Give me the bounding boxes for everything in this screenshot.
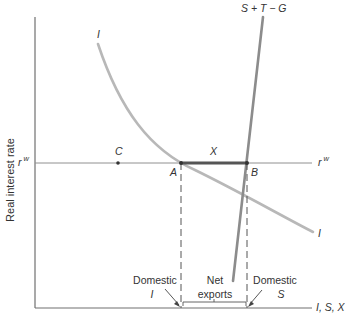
domestic-i-arrowhead	[174, 301, 180, 307]
y-axis-label: Real interest rate	[4, 138, 16, 222]
net-exports-label: Net exports	[192, 275, 238, 299]
net-exports-bracket	[183, 299, 246, 306]
point-c-label: C	[115, 146, 123, 157]
world-rate-label-left: rw	[18, 155, 29, 168]
domestic-investment-label: Domestic I	[131, 275, 179, 299]
segment-x-label: X	[210, 146, 217, 157]
point-a-marker	[179, 161, 183, 165]
world-rate-label-right: rw	[318, 155, 329, 168]
point-b-marker	[245, 161, 249, 165]
point-a-label: A	[170, 167, 177, 178]
point-b-label: B	[251, 167, 258, 178]
investment-curve-label-bottom: I	[318, 228, 321, 239]
domestic-s-arrowhead	[248, 301, 254, 307]
x-axis-label: I, S, X	[316, 302, 345, 313]
investment-curve	[98, 44, 313, 232]
domestic-saving-label: Domestic S	[251, 275, 299, 299]
point-c-marker	[116, 161, 120, 165]
diagram-canvas	[0, 0, 345, 318]
national-saving-label: S + T − G	[241, 3, 287, 14]
national-saving-line	[233, 17, 263, 281]
investment-curve-label-top: I	[97, 29, 100, 40]
